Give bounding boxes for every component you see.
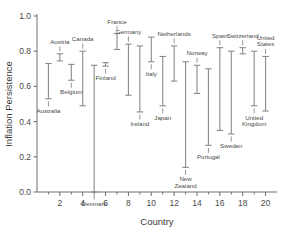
- x-tick-label: 2: [57, 198, 62, 208]
- error-bar[interactable]: Switzerland: [227, 32, 260, 54]
- y-tick-label: 0.4: [19, 117, 31, 127]
- point-label: Canada: [72, 35, 94, 42]
- point-label: States: [257, 40, 275, 47]
- point-label: Sweden: [220, 142, 243, 149]
- x-tick-label: 20: [261, 198, 271, 208]
- point-label: Ireland: [130, 120, 149, 127]
- y-tick-label: 0.8: [19, 46, 31, 56]
- point-label: Netherlands: [157, 30, 190, 37]
- y-axis-ticks: 0.00.20.40.60.81.0: [19, 11, 37, 197]
- point-label: Australia: [36, 107, 61, 114]
- error-bar[interactable]: Australia: [36, 64, 61, 114]
- error-bar-series: AustraliaAustriaBelgiumCanadaDenmarkFinl…: [36, 18, 275, 207]
- point-label: Portugal: [197, 153, 220, 160]
- error-bar[interactable]: Finland: [95, 63, 116, 82]
- inflation-persistence-chart: 0.00.20.40.60.81.02468101214161820Countr…: [0, 0, 281, 235]
- point-label: Denmark: [82, 200, 108, 207]
- point-label: Austria: [50, 38, 70, 45]
- y-tick-label: 0.2: [19, 152, 31, 162]
- point-label: Germany: [116, 28, 142, 35]
- x-tick-label: 12: [169, 198, 179, 208]
- point-label: Finland: [95, 74, 116, 81]
- x-tick-label: 8: [126, 198, 131, 208]
- point-label: Italy: [146, 70, 158, 77]
- x-tick-label: 18: [238, 198, 248, 208]
- error-bar[interactable]: Austria: [50, 38, 70, 61]
- y-tick-label: 0.6: [19, 81, 31, 91]
- y-tick-label: 0.0: [19, 187, 31, 197]
- error-bar[interactable]: Germany: [116, 28, 142, 95]
- error-bar[interactable]: Spain: [212, 32, 228, 131]
- point-label: France: [107, 18, 127, 25]
- error-bar[interactable]: Denmark: [82, 65, 108, 207]
- point-label: United: [257, 34, 275, 41]
- point-label: Switzerland: [227, 32, 260, 39]
- point-label: Japan: [154, 114, 171, 121]
- error-bar[interactable]: Italy: [146, 37, 158, 77]
- x-tick-label: 16: [215, 198, 225, 208]
- point-label: Zealand: [174, 182, 197, 189]
- error-bar[interactable]: Sweden: [220, 51, 243, 149]
- error-bar[interactable]: Portugal: [197, 69, 220, 161]
- error-bar[interactable]: Belgium: [60, 64, 82, 95]
- error-bar[interactable]: Japan: [154, 56, 171, 120]
- error-bar[interactable]: StatesUnited: [257, 34, 275, 111]
- x-tick-label: 14: [192, 198, 202, 208]
- y-tick-label: 1.0: [19, 11, 31, 21]
- x-tick-label: 10: [147, 198, 157, 208]
- point-label: Kingdom: [242, 120, 266, 127]
- error-bar[interactable]: NewZealand: [174, 62, 197, 189]
- chart-canvas: 0.00.20.40.60.81.02468101214161820Countr…: [0, 0, 281, 235]
- point-label: Belgium: [60, 88, 82, 95]
- point-label: Norway: [187, 49, 209, 56]
- error-bar[interactable]: Norway: [187, 49, 209, 93]
- x-axis-title: Country: [140, 216, 174, 227]
- error-bar[interactable]: UnitedKingdom: [242, 51, 266, 127]
- error-bar[interactable]: Ireland: [130, 46, 149, 127]
- y-axis-title: Inflation Persistence: [3, 61, 14, 147]
